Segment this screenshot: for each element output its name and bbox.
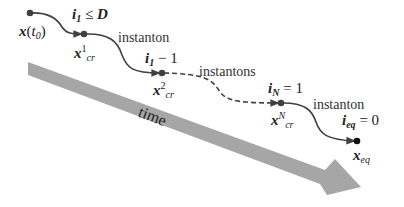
label-x-eq: xeq bbox=[353, 148, 370, 165]
index-iN-eq-1: iN = 1 bbox=[268, 81, 303, 98]
transition-label-1: instanton bbox=[118, 31, 169, 45]
x-base: x bbox=[153, 82, 161, 98]
relation: − bbox=[154, 50, 170, 66]
sub: cr bbox=[87, 52, 95, 63]
x-base: x bbox=[271, 112, 279, 128]
x-base: x bbox=[19, 23, 27, 39]
relation: = bbox=[356, 112, 372, 128]
relation: ≤ bbox=[81, 6, 97, 22]
label-x-cr-2: x2cr bbox=[153, 81, 174, 100]
x-base: x bbox=[74, 45, 82, 61]
sub: cr bbox=[285, 119, 293, 130]
transition-label-2: instantons bbox=[199, 65, 256, 79]
label-x-cr-1: x1cr bbox=[74, 44, 95, 63]
paren-close: ) bbox=[41, 23, 46, 39]
rhs: 1 bbox=[295, 80, 303, 96]
dot-x-cr-1 bbox=[81, 31, 88, 38]
x-base: x bbox=[353, 147, 361, 163]
rhs: D bbox=[97, 6, 108, 22]
dot-x-cr-N bbox=[278, 100, 285, 107]
sub: eq bbox=[361, 154, 370, 165]
dot-x-cr-2 bbox=[159, 70, 166, 77]
index-i1-minus-1: i1 − 1 bbox=[145, 51, 178, 68]
time-arrow bbox=[28, 62, 361, 195]
transition-label-3: instanton bbox=[313, 98, 364, 112]
index-ieq-eq-0: ieq = 0 bbox=[342, 113, 379, 130]
dot-x-t0 bbox=[27, 10, 34, 17]
rhs: 0 bbox=[372, 112, 380, 128]
label-x-t0: x(t0) bbox=[19, 24, 46, 41]
label-x-cr-N: xNcr bbox=[271, 111, 294, 130]
relation: = bbox=[279, 80, 295, 96]
dot-x-eq bbox=[354, 138, 361, 145]
i-sub: eq bbox=[346, 119, 355, 130]
sub: cr bbox=[166, 89, 174, 100]
rhs: 1 bbox=[170, 50, 178, 66]
index-i1-le-D: i1 ≤ D bbox=[72, 7, 108, 24]
